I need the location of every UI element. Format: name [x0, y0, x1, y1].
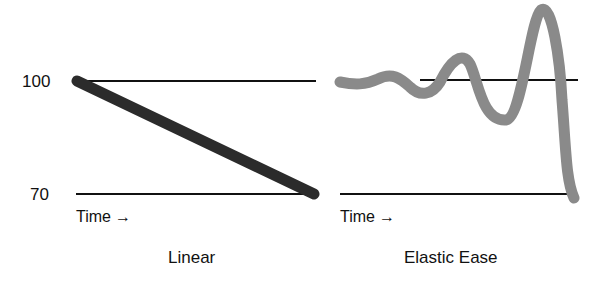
elastic-curve	[340, 9, 574, 198]
elastic-x-axis-label: Time →	[340, 209, 395, 225]
y-tick-70: 70	[30, 186, 49, 203]
easing-diagram	[0, 0, 607, 283]
linear-x-axis-label: Time →	[76, 209, 131, 225]
arrow-right-icon: →	[379, 209, 395, 225]
y-tick-100: 100	[22, 73, 50, 90]
elastic-panel-title: Elastic Ease	[404, 249, 498, 266]
linear-panel-title: Linear	[168, 249, 215, 266]
linear-time-label: Time	[76, 209, 111, 225]
linear-curve	[77, 81, 314, 194]
arrow-right-icon: →	[115, 209, 131, 225]
elastic-time-label: Time	[340, 209, 375, 225]
